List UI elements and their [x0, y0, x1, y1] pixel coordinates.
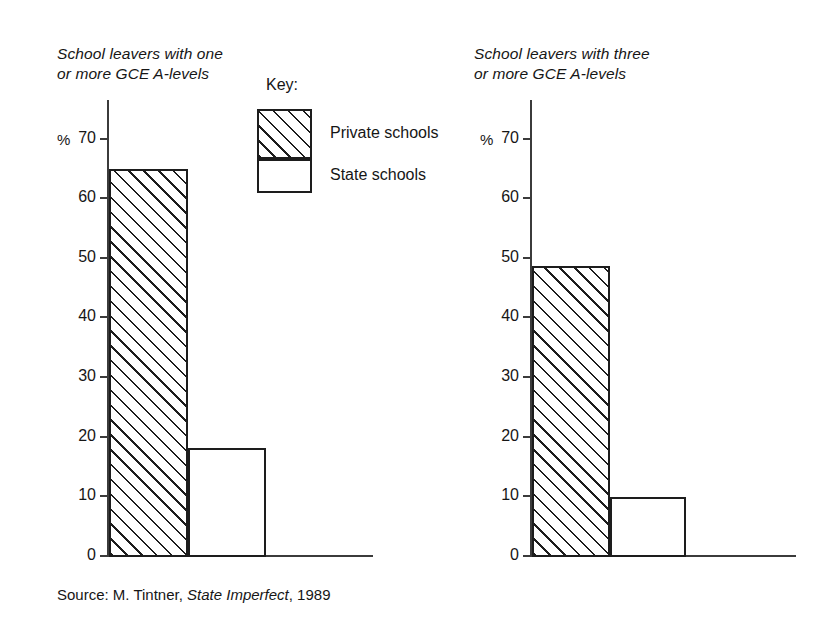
chart-left-tick-label-60: 60	[62, 188, 96, 206]
chart-left-tick-label-0: 0	[62, 546, 96, 564]
chart-right-tick-label-50: 50	[485, 248, 519, 266]
chart-right-bar-state-schools	[610, 497, 686, 557]
chart-right-tick-20	[523, 436, 532, 438]
chart-left-tick-10	[100, 495, 109, 497]
chart-right-tick-label-20: 20	[485, 427, 519, 445]
legend-label-private-schools: Private schools	[330, 124, 439, 142]
chart-left-tick-label-30: 30	[62, 367, 96, 385]
chart-left-tick-30	[100, 376, 109, 378]
chart-right-tick-40	[523, 316, 532, 318]
legend-title: Key:	[266, 76, 298, 94]
chart-right-tick-label-60: 60	[485, 188, 519, 206]
legend-swatch-private-schools	[257, 109, 312, 159]
legend-label-state-schools: State schools	[330, 166, 426, 184]
chart-left-tick-40	[100, 316, 109, 318]
chart-right-bar-private-schools	[532, 266, 610, 557]
legend-swatch-state-schools	[257, 159, 312, 193]
chart-right-tick-label-0: 0	[485, 546, 519, 564]
chart-left-tick-60	[100, 197, 109, 199]
chart-right-tick-0	[523, 555, 532, 557]
chart-right-title: School leavers with three or more GCE A-…	[474, 44, 724, 84]
chart-right-tick-label-10: 10	[485, 486, 519, 504]
chart-left-bar-state-schools	[188, 448, 266, 557]
chart-left-tick-0	[100, 555, 109, 557]
chart-left-bar-private-schools	[109, 169, 188, 557]
chart-left-tick-label-10: 10	[62, 486, 96, 504]
chart-left-title: School leavers with one or more GCE A-le…	[57, 44, 287, 84]
chart-left-tick-label-40: 40	[62, 307, 96, 325]
figure-two-bar-charts: School leavers with one or more GCE A-le…	[0, 0, 826, 632]
chart-right-tick-label-40: 40	[485, 307, 519, 325]
chart-left-tick-20	[100, 436, 109, 438]
chart-left-tick-50	[100, 257, 109, 259]
source-work-title: State Imperfect	[187, 586, 289, 603]
source-suffix: , 1989	[289, 586, 331, 603]
source-prefix: Source: M. Tintner,	[57, 586, 187, 603]
chart-right-tick-10	[523, 495, 532, 497]
source-note: Source: M. Tintner, State Imperfect, 198…	[57, 586, 331, 603]
chart-right-tick-30	[523, 376, 532, 378]
chart-left-tick-label-20: 20	[62, 427, 96, 445]
chart-right-tick-50	[523, 257, 532, 259]
chart-left-tick-label-50: 50	[62, 248, 96, 266]
chart-right-tick-label-30: 30	[485, 367, 519, 385]
chart-right-tick-70	[523, 138, 532, 140]
chart-right-tick-label-70: 70	[485, 129, 519, 147]
chart-left-tick-label-70: 70	[62, 129, 96, 147]
chart-right-tick-60	[523, 197, 532, 199]
chart-left-tick-70	[100, 138, 109, 140]
